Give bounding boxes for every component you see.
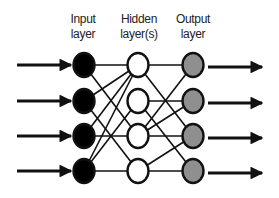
input-node	[74, 53, 95, 77]
output-node	[183, 89, 204, 113]
hidden-node	[128, 159, 149, 183]
hidden-node	[128, 124, 149, 148]
output-node	[183, 124, 204, 148]
input-node	[74, 159, 95, 183]
input-node	[74, 124, 95, 148]
output-node	[183, 53, 204, 77]
edge-input-hidden	[84, 65, 138, 171]
network-diagram	[0, 0, 279, 198]
hidden-node	[128, 53, 149, 77]
hidden-node	[128, 89, 149, 113]
input-node	[74, 89, 95, 113]
output-node	[183, 159, 204, 183]
